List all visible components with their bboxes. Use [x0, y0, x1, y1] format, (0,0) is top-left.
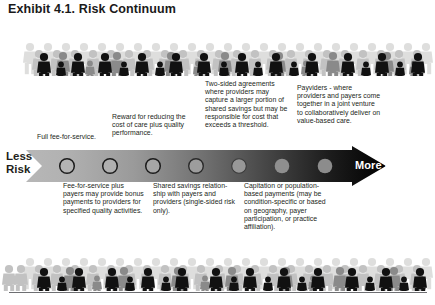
callout-two-sided-agreements: Two-sided agreements where providers may…: [205, 80, 289, 129]
callout-capitation: Capitation or population-based payments …: [244, 182, 334, 231]
callout-shared-savings: Shared savings relation-ship with payers…: [153, 182, 238, 215]
less-risk-label: Less Risk: [6, 150, 42, 175]
less-risk-line1: Less: [6, 150, 42, 163]
callout-payviders: Payviders - where providers and payers c…: [297, 84, 381, 125]
bottom-divider-rule: [9, 292, 427, 293]
less-risk-line2: Risk: [6, 163, 42, 176]
page-title: Exhibit 4.1. Risk Continuum: [8, 2, 176, 16]
callout-full-fee-for-service: Full fee-for-service.: [37, 133, 115, 141]
callout-ffs-plus-bonus: Fee-for-service plus payers may provide …: [63, 182, 145, 215]
people-silhouette-band-bottom: [0, 243, 435, 291]
callout-reward-cost-quality: Reward for reducing the cost of care plu…: [112, 113, 196, 138]
more-risk-label: More Risk: [355, 159, 408, 171]
people-silhouette-band-top: [0, 26, 435, 76]
